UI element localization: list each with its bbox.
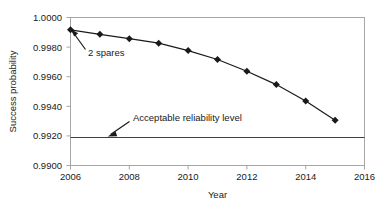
y-tick-label-2: 0.9980: [33, 42, 62, 53]
y-tick-label-1: 1.0000: [33, 12, 62, 23]
plot-frame: [71, 18, 365, 166]
x-tick-label-1: 2006: [60, 171, 81, 182]
x-axis-title: Year: [208, 189, 227, 200]
x-tick-label-5: 2014: [295, 171, 316, 182]
x-axis-ticks: [71, 166, 365, 170]
x-tick-label-3: 2010: [178, 171, 199, 182]
y-tick-label-5: 0.9920: [33, 130, 62, 141]
y-axis-title: Success probability: [7, 50, 18, 132]
y-tick-label-6: 0.9900: [33, 160, 62, 171]
x-tick-label-2: 2008: [119, 171, 140, 182]
x-tick-label-4: 2012: [236, 171, 257, 182]
y-tick-label-3: 0.9960: [33, 71, 62, 82]
y-axis-ticks: [67, 18, 71, 166]
success-probability-line-chart: 1.0000 0.9980 0.9960 0.9940 0.9920 0.990…: [0, 0, 391, 209]
x-tick-label-6: 2016: [354, 171, 375, 182]
annotation-label-2-spares: 2 spares: [88, 47, 125, 58]
chart-container: 1.0000 0.9980 0.9960 0.9940 0.9920 0.990…: [0, 0, 391, 209]
annotation-label-acceptable-reliability: Acceptable reliability level: [133, 112, 242, 123]
y-tick-label-4: 0.9940: [33, 101, 62, 112]
